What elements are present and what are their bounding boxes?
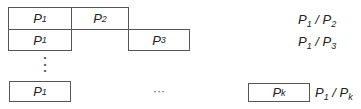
box-subscript: 1 [42,87,47,97]
box-subscript: k [281,88,286,98]
row2-box-p3: P3 [128,29,190,51]
vertical-ellipsis: ⋮ [36,54,54,74]
row1-box-p1: P1 [8,7,72,30]
row2-box-p1: P1 [8,29,72,51]
box-label: P [33,33,42,48]
box-label: P [93,11,102,26]
box-subscript: 3 [161,35,166,45]
box-subscript: 2 [102,14,107,24]
horizontal-ellipsis: ··· [153,84,165,98]
box-subscript: 1 [42,35,47,45]
row2-ratio: P1 / P3 [298,34,336,51]
box-label: P [272,85,281,100]
row2-connector-line [71,29,129,30]
box-label: P [33,11,42,26]
rowk-ratio: P1 / Pk [315,85,353,102]
box-subscript: 1 [42,14,47,24]
rowk-box-p1: P1 [9,81,71,102]
box-label: P [33,84,42,99]
box-label: P [152,33,161,48]
row1-box-p2: P2 [71,7,129,30]
row1-ratio: P1 / P2 [298,12,336,29]
rowk-box-pk: Pk [248,83,310,102]
